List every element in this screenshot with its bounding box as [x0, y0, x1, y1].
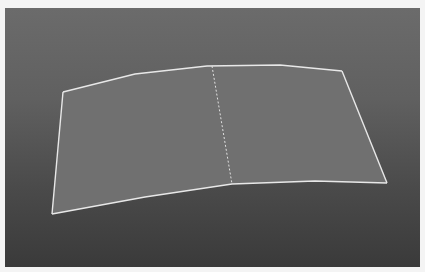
- curved-plane-surface[interactable]: [52, 65, 387, 214]
- viewport-canvas[interactable]: [5, 8, 420, 267]
- application-frame: [0, 0, 425, 272]
- 3d-viewport[interactable]: [5, 8, 420, 267]
